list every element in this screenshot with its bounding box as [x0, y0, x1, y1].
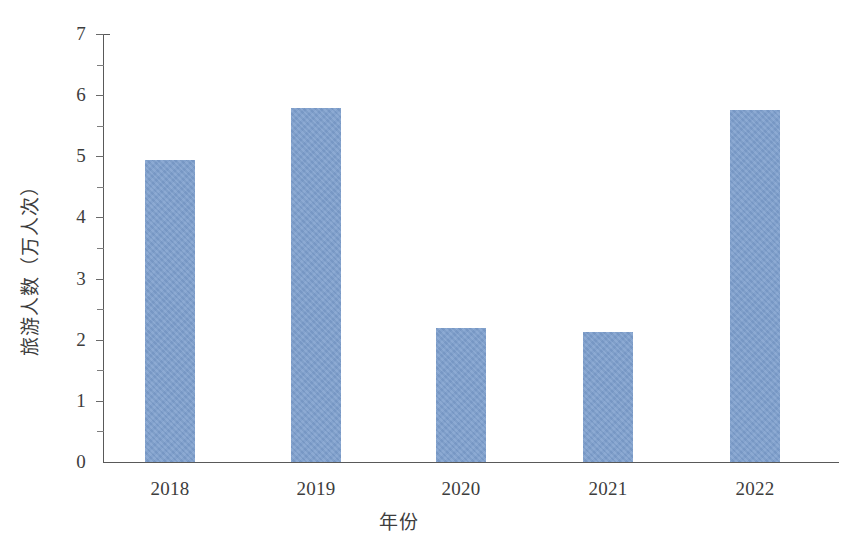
- x-axis-tick-label: 2021: [548, 478, 668, 500]
- bar: [436, 328, 486, 462]
- x-axis-tick-label: 2022: [695, 478, 815, 500]
- y-axis-title-text: 旅游人数（万人次）: [21, 176, 41, 356]
- y-axis-tick-label-text: 4: [58, 207, 86, 226]
- bar: [145, 160, 195, 462]
- y-axis-tick-label-text: 7: [58, 24, 86, 43]
- y-axis-tick-label-text: 3: [58, 269, 86, 288]
- bar: [730, 110, 780, 462]
- x-axis-tick-label: 2018: [110, 478, 230, 500]
- x-axis-tick-label: 2019: [256, 478, 376, 500]
- bar: [291, 108, 341, 462]
- y-axis-title: 旅游人数（万人次）: [14, 0, 48, 547]
- bar: [583, 332, 633, 462]
- x-axis-tick-label: 2020: [401, 478, 521, 500]
- x-axis-line: [103, 462, 839, 463]
- x-axis-title: 年份: [0, 512, 851, 534]
- x-axis-title-text: 年份: [379, 512, 419, 534]
- y-axis-tick-label-text: 5: [58, 146, 86, 165]
- y-axis-tick-label-text: 6: [58, 85, 86, 104]
- y-axis-tick-label-text: 2: [58, 330, 86, 349]
- bar-chart: 旅游人数（万人次） 01234567 20182019202020212022 …: [0, 0, 851, 547]
- plot-area: [103, 34, 838, 462]
- y-axis-tick-label-text: 0: [58, 452, 86, 471]
- y-axis-tick-label-text: 1: [58, 391, 86, 410]
